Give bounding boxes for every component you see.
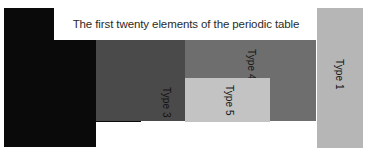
tile-type1: Type 1 — [317, 8, 363, 148]
tile-type4-label: Type 4 — [246, 49, 257, 80]
tile-type5-label: Type 5 — [224, 85, 235, 116]
tile-type2-segment-mid — [4, 40, 96, 79]
tile-type3-label: Type 3 — [161, 87, 172, 118]
treemap-chart: Type 3 Type 4 Type 5 Type 1 The first tw… — [0, 0, 368, 155]
chart-title: The first twenty elements of the periodi… — [72, 15, 300, 33]
tile-type2-segment-bottom — [4, 121, 96, 147]
tile-type1-label: Type 1 — [334, 59, 345, 90]
tile-type3: Type 3 — [96, 40, 185, 121]
tile-type2-segment-top — [4, 8, 54, 41]
tile-type5: Type 5 — [185, 78, 270, 122]
